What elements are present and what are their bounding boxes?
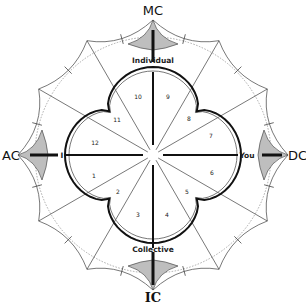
pole-label-i: I [61, 151, 64, 160]
radial-spoke [158, 89, 267, 152]
segment-label-12: 12 [91, 139, 99, 146]
radial-spoke [158, 158, 267, 221]
segment-label-8: 8 [187, 115, 191, 122]
segment-label-10: 10 [134, 93, 142, 100]
segment-label-1: 1 [92, 172, 96, 179]
segment-label-5: 5 [185, 188, 189, 195]
segment-label-6: 6 [210, 169, 214, 176]
axis-label-ac: AC [2, 148, 20, 163]
axis-label-ic: IC [145, 290, 161, 304]
axis-label-dc: DC [288, 148, 306, 163]
segment-label-4: 4 [165, 211, 169, 218]
pole-label-you: You [238, 151, 254, 160]
radial-spoke [39, 158, 148, 221]
orientation-diagram: MC IC AC DC Individual Collective You I … [0, 0, 306, 304]
segment-label-11: 11 [113, 116, 121, 123]
segment-label-3: 3 [136, 211, 140, 218]
axis-label-mc: MC [143, 3, 163, 18]
segment-label-7: 7 [209, 132, 213, 139]
pole-label-collective: Collective [132, 245, 173, 254]
segment-label-2: 2 [116, 188, 120, 195]
pole-label-individual: Individual [132, 56, 174, 65]
segment-label-9: 9 [166, 93, 170, 100]
